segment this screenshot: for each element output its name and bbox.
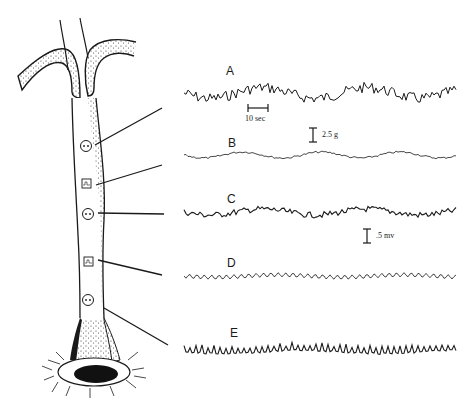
- diagram-canvas: [0, 0, 475, 408]
- voltage-scale-bar: [363, 229, 371, 243]
- voltage-scale-label: .5 mv: [376, 231, 394, 240]
- sensor-B: [82, 179, 91, 188]
- trace-label-B: B: [228, 136, 236, 150]
- trace-B: [184, 151, 456, 159]
- sensor-D: [84, 257, 93, 266]
- force-scale-bar: [309, 128, 317, 142]
- time-scale-label: 10 sec: [245, 114, 265, 123]
- trace-D: [184, 273, 456, 280]
- leader-lines: [95, 108, 168, 345]
- trace-C: [184, 206, 456, 218]
- sensor-A: [81, 141, 92, 152]
- sensor-E: [83, 295, 94, 306]
- time-scale-bar: [248, 104, 268, 112]
- force-scale-label: 2.5 g: [322, 130, 338, 139]
- tree-trunk: [18, 18, 146, 398]
- trace-E: [184, 342, 456, 354]
- trace-label-D: D: [227, 256, 236, 270]
- sensor-C: [83, 209, 94, 220]
- trace-A: [184, 82, 456, 102]
- trace-label-A: A: [226, 64, 234, 78]
- trace-label-C: C: [227, 192, 236, 206]
- trace-label-E: E: [230, 326, 238, 340]
